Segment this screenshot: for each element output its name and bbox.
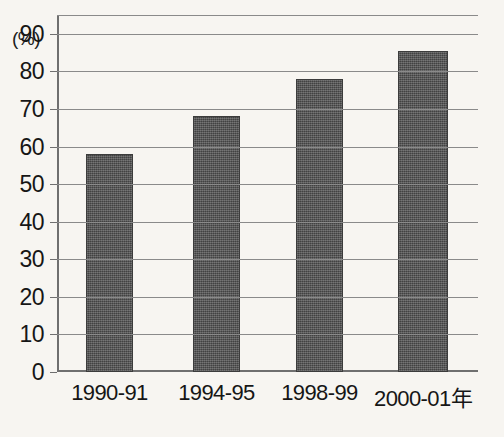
x-axis-tick-labels: 1990-911994-951998-992000-01年 <box>57 380 497 420</box>
y-axis-tick-labels: 0102030405060708090 <box>0 15 52 372</box>
y-axis-tick-mark <box>50 372 57 373</box>
bar <box>296 79 343 372</box>
y-axis-tick-label: 90 <box>19 22 44 45</box>
y-axis-tick-label: 0 <box>32 361 44 384</box>
gridline <box>57 297 478 298</box>
y-axis-tick-label: 80 <box>19 60 44 83</box>
y-axis-tick-mark <box>50 184 57 185</box>
y-axis-tick-mark <box>50 71 57 72</box>
gridline <box>57 109 478 110</box>
gridline <box>57 334 478 335</box>
y-axis-tick-label: 10 <box>19 323 44 346</box>
plot-area <box>57 15 478 372</box>
y-axis-tick-mark <box>50 222 57 223</box>
y-axis-tick-mark <box>50 297 57 298</box>
gridline <box>57 15 478 16</box>
y-axis-tick-mark <box>50 109 57 110</box>
gridline <box>57 259 478 260</box>
y-axis-tick-mark <box>50 34 57 35</box>
gridline <box>57 34 478 35</box>
y-axis-tick-label: 60 <box>19 135 44 158</box>
y-axis-tick-mark <box>50 259 57 260</box>
bars-layer <box>57 15 478 372</box>
x-axis-tick-label: 2000-01年 <box>363 380 483 412</box>
y-axis-tick-label: 70 <box>19 97 44 120</box>
y-axis-tick-label: 40 <box>19 210 44 233</box>
gridline <box>57 222 478 223</box>
x-axis-tick-label: 1998-99 <box>260 380 380 406</box>
x-axis-tick-label: 1994-95 <box>157 380 277 406</box>
y-axis-tick-label: 50 <box>19 173 44 196</box>
y-axis-tick-label: 30 <box>19 248 44 271</box>
x-axis-tick-label: 1990-91 <box>50 380 170 406</box>
y-axis-tick-mark <box>50 334 57 335</box>
bar-chart: (%) 0102030405060708090 1990-911994-9519… <box>0 0 504 437</box>
y-axis-tick-mark <box>50 147 57 148</box>
y-axis-tick-label: 20 <box>19 285 44 308</box>
gridline <box>57 147 478 148</box>
gridline <box>57 71 478 72</box>
bar <box>86 154 133 372</box>
gridline <box>57 184 478 185</box>
bar <box>398 51 448 372</box>
